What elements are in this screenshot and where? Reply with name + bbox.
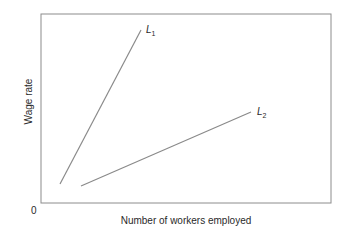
- l1-label-sub: 1: [152, 30, 156, 37]
- x-axis-label: Number of workers employed: [116, 215, 256, 226]
- line-l1: [60, 30, 141, 184]
- plot-frame: [41, 14, 331, 203]
- l2-label: L2: [257, 106, 266, 119]
- l1-label: L1: [146, 24, 155, 37]
- chart-canvas: [0, 0, 346, 246]
- y-axis-label: Wage rate: [23, 72, 34, 132]
- line-l2: [81, 112, 251, 186]
- origin-label: 0: [31, 205, 37, 216]
- l2-label-sub: 2: [263, 112, 267, 119]
